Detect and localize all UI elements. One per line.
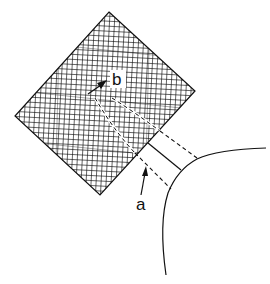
arrow-a — [141, 166, 148, 195]
hatched-block — [10, 10, 200, 200]
label-a: a — [136, 195, 146, 214]
channel-solid-line — [148, 143, 181, 170]
diagram-figure: a b — [0, 0, 270, 284]
label-b: b — [112, 70, 121, 89]
channel-upper-dashed-line — [160, 131, 197, 158]
channel-lower-dashed-line — [135, 153, 171, 189]
